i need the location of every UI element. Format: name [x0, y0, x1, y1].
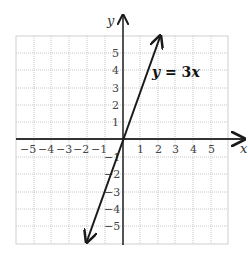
- svg-text:−4: −4: [38, 143, 54, 156]
- svg-text:−5: −5: [104, 220, 120, 233]
- svg-text:2: 2: [112, 99, 119, 112]
- coordinate-plane: x y −5 −4 −3 −2 −1 1 2 3 4 5 5 4 3 2 1 −…: [0, 0, 248, 253]
- svg-text:4: 4: [190, 143, 197, 156]
- equation-label: y = 3x: [151, 64, 200, 80]
- x-axis-label: x: [240, 141, 248, 156]
- svg-text:1: 1: [137, 143, 144, 156]
- svg-text:−3: −3: [56, 143, 72, 156]
- svg-text:5: 5: [208, 143, 215, 156]
- svg-text:1: 1: [112, 116, 119, 129]
- svg-text:5: 5: [112, 47, 119, 60]
- svg-text:2: 2: [155, 143, 162, 156]
- y-axis-label: y: [106, 13, 115, 28]
- svg-text:−5: −5: [20, 143, 36, 156]
- svg-text:−4: −4: [104, 203, 120, 216]
- svg-text:4: 4: [112, 64, 119, 77]
- svg-text:3: 3: [112, 82, 119, 95]
- svg-text:3: 3: [172, 143, 179, 156]
- svg-text:−2: −2: [73, 143, 89, 156]
